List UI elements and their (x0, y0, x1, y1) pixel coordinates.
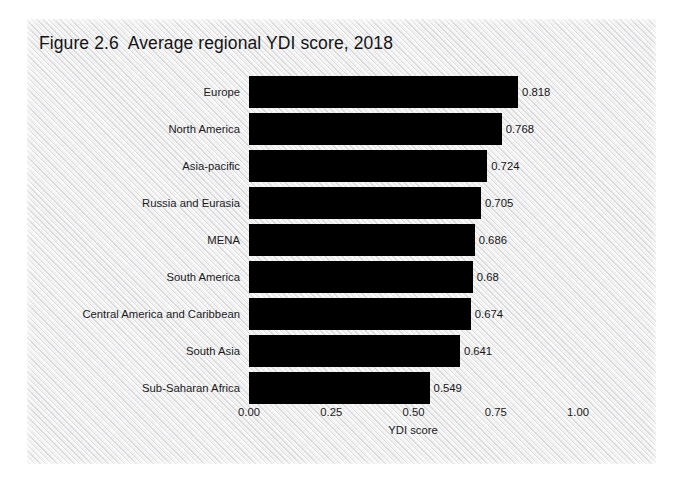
bar (249, 113, 502, 145)
category-label: North America (10, 113, 240, 145)
category-label: Russia and Eurasia (10, 187, 240, 219)
category-label: MENA (10, 224, 240, 256)
bar (249, 76, 518, 108)
x-axis: YDI score 0.000.250.500.751.00 (0, 406, 685, 446)
bar-value-label: 0.705 (481, 187, 513, 219)
bar (249, 335, 460, 367)
bar-row: North America (0, 113, 240, 145)
bar-value-label: 0.768 (502, 113, 534, 145)
bar-row: Russia and Eurasia (0, 187, 240, 219)
x-tick-label: 0.25 (320, 406, 342, 418)
category-label: Sub-Saharan Africa (10, 372, 240, 404)
bar-value-label: 0.818 (518, 76, 550, 108)
bar (249, 224, 475, 256)
bar-row: South America (0, 261, 240, 293)
x-tick-label: 0.00 (238, 406, 260, 418)
bar (249, 187, 481, 219)
bar-value-label: 0.68 (473, 261, 499, 293)
category-label: Europe (10, 76, 240, 108)
category-label: Central America and Caribbean (10, 298, 240, 330)
bar-value-label: 0.686 (475, 224, 507, 256)
category-label: South Asia (10, 335, 240, 367)
bar-value-label: 0.641 (460, 335, 492, 367)
bar (249, 298, 471, 330)
bar-row: South Asia (0, 335, 240, 367)
bar-row: Asia-pacific (0, 150, 240, 182)
bar-row: Europe (0, 76, 240, 108)
bar (249, 372, 430, 404)
category-label: South America (10, 261, 240, 293)
x-tick-label: 1.00 (567, 406, 589, 418)
bar-row: MENA (0, 224, 240, 256)
bar (249, 150, 487, 182)
x-axis-label: YDI score (388, 424, 438, 436)
bar-value-label: 0.549 (430, 372, 462, 404)
x-tick-label: 0.50 (403, 406, 425, 418)
bar-value-label: 0.724 (487, 150, 519, 182)
category-label: Asia-pacific (10, 150, 240, 182)
bar-row: Central America and Caribbean (0, 298, 240, 330)
bar (249, 261, 473, 293)
x-tick-label: 0.75 (485, 406, 507, 418)
bar-row: Sub-Saharan Africa (0, 372, 240, 404)
figure-container: Figure 2.6 Average regional YDI score, 2… (0, 0, 685, 479)
bar-value-label: 0.674 (471, 298, 503, 330)
